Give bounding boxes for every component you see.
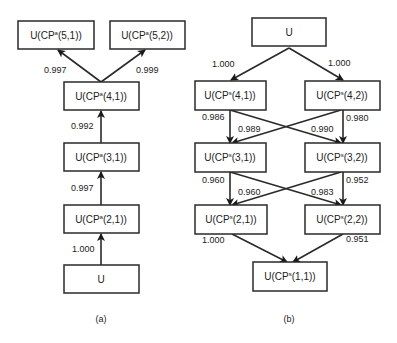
weight-a-u-21: 1.000 [72,244,95,254]
node-b-u: U [252,18,326,46]
node-a-3-1: U(CPa(3,1)) [64,143,139,171]
node-b-3-1: U(CPs(3,1)) [195,143,266,172]
svg-text:U: U [97,274,104,285]
weight-b-21-11: 1.000 [202,235,225,245]
caption-a: (a) [96,314,107,324]
panel-b: 1.000 1.000 0.986 0.989 0.990 0.980 0.96… [195,18,380,324]
node-b-2-1: U(CPs(2,1)) [195,205,267,234]
node-b-4-1: U(CPs(4,1)) [195,81,266,110]
diagram-canvas: 0.997 0.999 0.992 0.997 1.000 U(CPa(5,1)… [0,0,397,343]
weight-b-31-22: 0.983 [311,187,334,197]
edge-b-21-11 [232,234,287,262]
edge-b-22-11 [293,234,343,262]
weight-b-u-41: 1.000 [212,59,235,69]
weight-b-32-21: 0.960 [238,187,261,197]
caption-b: (b) [284,314,295,324]
svg-text:U: U [285,27,292,38]
edge-b-u-41 [231,48,289,80]
weight-b-31-21: 0.960 [202,175,225,185]
node-b-3-2: U(CPs(3,2)) [305,143,380,172]
weight-b-41-31: 0.986 [202,112,225,122]
node-a-5-1: U(CPa(5,1)) [18,21,94,49]
node-a-u: U [64,265,139,293]
node-b-4-2: U(CPs(4,2)) [305,81,380,110]
weight-b-41-32: 0.990 [311,124,334,134]
weight-a-41-51: 0.997 [44,65,67,75]
weight-b-u-42: 1.000 [328,58,351,68]
node-a-4-1: U(CPa(4,1)) [64,82,139,110]
weight-a-31-41: 0.992 [71,121,94,131]
panel-a: 0.997 0.999 0.992 0.997 1.000 U(CPa(5,1)… [18,21,185,324]
weight-b-22-11: 0.951 [346,234,369,244]
node-b-2-2: U(CPs(2,2)) [305,205,380,234]
node-b-1-1: U(CPs(1,1)) [253,262,327,291]
node-a-5-2: U(CPa(5,2)) [110,21,185,49]
weight-b-42-32: 0.980 [346,113,369,123]
weight-a-21-31: 0.997 [71,183,94,193]
node-a-2-1: U(CPa(2,1)) [64,205,139,233]
weight-b-32-22: 0.952 [346,175,369,185]
weight-a-41-52: 0.999 [136,65,159,75]
weight-b-42-31: 0.989 [238,124,261,134]
